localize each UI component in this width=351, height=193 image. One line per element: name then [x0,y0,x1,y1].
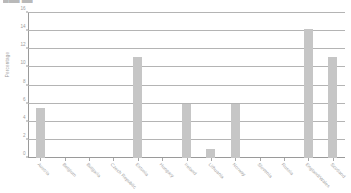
bar[interactable] [133,57,142,159]
x-axis-label-slot: Estonia [126,161,150,193]
y-axis-tick-label: 4 [23,114,26,119]
bar-slot [52,13,76,158]
bar-slot [174,13,198,158]
bar[interactable] [182,104,191,158]
x-axis-label-slot: Czech Republic [101,161,125,193]
bar-slot [77,13,101,158]
x-axis-label-slot: Russia [272,161,296,193]
y-axis-tick-label: 16 [20,6,25,11]
bar-slot [272,13,296,158]
bar-slot [223,13,247,158]
bar-slot [150,13,174,158]
bar[interactable] [328,57,337,159]
bar-slot [321,13,345,158]
x-axis-label-slot: Belgium [52,161,76,193]
x-axis-tick-label: Slovenia [256,162,273,179]
x-axis-label-slot: England/Wales [296,161,320,193]
bar-slot [28,13,52,158]
y-axis-tick-label: 12 [20,42,25,47]
bar-slot [296,13,320,158]
x-axis-tick-label: Estonia [134,162,149,177]
x-axis-label-slot: Ireland [174,161,198,193]
x-axis-label-slot: Norway [223,161,247,193]
y-axis-tick-label: 8 [23,78,26,83]
y-axis-tick-label: 6 [23,96,26,101]
x-axis-label-slot: Scotland [321,161,345,193]
x-axis-label-slot: Slovenia [248,161,272,193]
y-axis-title: Percentage [5,37,10,93]
x-axis-tick-label: Bulgaria [85,162,101,178]
bar-slot [248,13,272,158]
plot-area: 0246810121416 [28,13,345,158]
cutoff-title-text: ▆▆▆ ▆▆ [3,0,33,3]
x-axis-tick-label: Austria [37,162,51,176]
x-axis-label-slot: Lithuania [199,161,223,193]
y-axis-tick-label: 14 [20,24,25,29]
x-axis-label-slot: Austria [28,161,52,193]
x-axis-labels-group: AustriaBelgiumBulgariaCzech RepublicEsto… [28,161,345,193]
x-axis-tick-label: Hungary [159,162,176,179]
bar[interactable] [206,149,215,158]
x-axis-label-slot: Bulgaria [77,161,101,193]
y-axis-tick-label: 10 [20,60,25,65]
bar-slot [199,13,223,158]
bar[interactable] [231,104,240,158]
y-axis-tick-label: 2 [23,132,26,137]
x-axis-tick-label: Ireland [183,162,197,176]
bar[interactable] [304,29,313,158]
y-axis-tick-label: 0 [23,151,26,156]
chart-page: ▆▆▆ ▆▆ Percentage 0246810121416 AustriaB… [0,0,351,193]
x-axis-tick-label: Russia [281,162,295,176]
bars-group [28,13,345,158]
bar[interactable] [36,108,45,158]
bar-slot [126,13,150,158]
x-axis-tick-label: Norway [232,162,247,177]
x-axis-tick-label: Belgium [61,162,77,178]
bar-slot [101,13,125,158]
x-axis-tick-label: Scotland [329,162,346,179]
x-axis-label-slot: Hungary [150,161,174,193]
